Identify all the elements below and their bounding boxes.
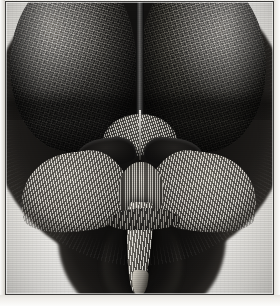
plate-left-margin [0,0,5,306]
engraving-plate-page [0,0,280,306]
lunule-midrib [139,110,141,160]
figure-stage [6,2,274,294]
plate-caption [0,295,280,306]
face-group [6,2,274,294]
proboscis-tip [131,269,149,294]
plate-right-margin [274,0,280,306]
